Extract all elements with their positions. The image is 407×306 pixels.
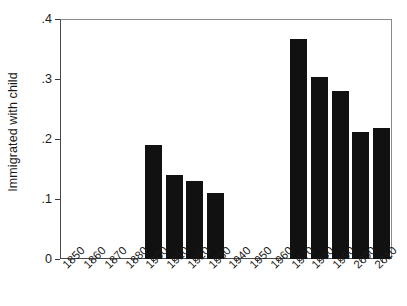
bar — [332, 91, 349, 259]
bar — [145, 145, 162, 259]
bar — [352, 132, 369, 259]
y-tick-label: .2 — [30, 133, 52, 146]
bar — [373, 128, 390, 259]
y-tick-label: 0 — [30, 253, 52, 266]
bar — [311, 77, 328, 259]
y-axis-tick-labels: 0.1.2.3.4 — [26, 0, 52, 306]
y-tick-label: .1 — [30, 193, 52, 206]
bar — [290, 39, 307, 259]
y-tick-label: .4 — [30, 13, 52, 26]
y-axis-title: Immigrated with child — [0, 0, 26, 264]
x-axis-tick-labels: 1850186018701880190019101920193019401950… — [60, 263, 400, 306]
bar-series — [60, 19, 392, 259]
bar-chart-figure: Immigrated with child 0.1.2.3.4 18501860… — [0, 0, 407, 306]
y-axis-title-text: Immigrated with child — [6, 72, 20, 192]
y-tick-label: .3 — [30, 73, 52, 86]
